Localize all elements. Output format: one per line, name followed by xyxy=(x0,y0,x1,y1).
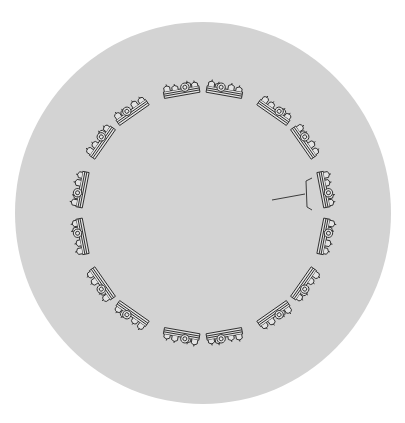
ring-diagram xyxy=(0,0,405,423)
diagram-stage xyxy=(0,0,405,423)
gray-disc xyxy=(15,22,391,404)
